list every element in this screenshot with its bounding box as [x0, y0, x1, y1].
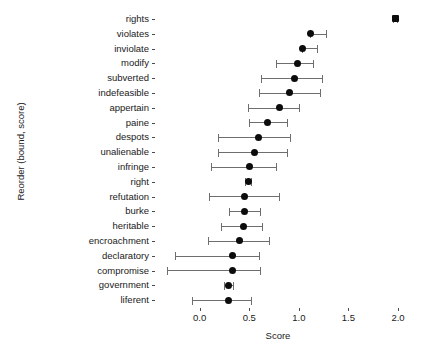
data-row — [158, 293, 398, 308]
category-label: liferent — [120, 293, 149, 308]
y-axis-tick-infringe: infringe — [0, 160, 155, 175]
category-label: violates — [117, 27, 149, 42]
data-row — [158, 234, 398, 249]
tick-mark — [152, 19, 156, 20]
category-label: despots — [116, 130, 149, 145]
data-point — [264, 119, 271, 126]
error-bar-cap-low — [221, 223, 222, 231]
error-bar-cap-low — [175, 252, 176, 260]
data-row — [158, 86, 398, 101]
error-bar — [218, 137, 290, 138]
data-row — [158, 190, 398, 205]
data-row — [158, 71, 398, 86]
category-label: declaratory — [102, 249, 149, 264]
data-row — [158, 12, 398, 27]
y-axis-tick-unalienable: unalienable — [0, 145, 155, 160]
y-axis-tick-heritable: heritable — [0, 219, 155, 234]
tick-mark — [152, 137, 156, 138]
tick-mark — [152, 271, 156, 272]
error-bar-cap-low — [192, 297, 193, 305]
x-tick-mark — [348, 308, 349, 311]
error-bar-cap-high — [260, 267, 261, 275]
data-point — [294, 60, 301, 67]
error-bar-cap-high — [233, 282, 234, 290]
x-tick-label: 0.5 — [243, 312, 256, 323]
error-bar — [211, 167, 276, 168]
y-axis-tick-compromise: compromise — [0, 264, 155, 279]
y-axis-tick-violates: violates — [0, 27, 155, 42]
category-label: heritable — [113, 219, 149, 234]
tick-mark — [152, 63, 156, 64]
error-bar-cap-high — [262, 223, 263, 231]
category-label: government — [99, 278, 149, 293]
error-bar-cap-low — [249, 119, 250, 127]
category-label: appertain — [109, 101, 149, 116]
data-point — [241, 193, 248, 200]
error-bar-cap-high — [299, 104, 300, 112]
data-point — [251, 149, 258, 156]
chart-figure: Reorder (bound, score) rightsviolatesinv… — [0, 0, 428, 353]
error-bar — [248, 108, 299, 109]
tick-mark — [152, 211, 156, 212]
tick-mark — [152, 182, 156, 183]
data-row — [158, 175, 398, 190]
category-label: refutation — [109, 190, 149, 205]
y-axis-tick-inviolate: inviolate — [0, 42, 155, 57]
y-axis-tick-labels: rightsviolatesinviolatemodifysubvertedin… — [0, 12, 155, 308]
data-row — [158, 145, 398, 160]
y-axis-tick-liferent: liferent — [0, 293, 155, 308]
tick-mark — [152, 256, 156, 257]
tick-mark — [152, 197, 156, 198]
data-row — [158, 219, 398, 234]
x-tick-label: 0.0 — [193, 312, 206, 323]
category-label: modify — [121, 56, 149, 71]
y-axis-tick-despots: despots — [0, 130, 155, 145]
category-label: subverted — [107, 71, 149, 86]
error-bar-cap-low — [167, 267, 168, 275]
data-row — [158, 56, 398, 71]
y-axis-tick-subverted: subverted — [0, 71, 155, 86]
error-bar-cap-high — [279, 193, 280, 201]
error-bar-cap-high — [290, 134, 291, 142]
y-axis-tick-declaratory: declaratory — [0, 249, 155, 264]
data-point — [229, 252, 236, 259]
data-point — [245, 178, 252, 185]
x-tick-label: 2.0 — [391, 312, 404, 323]
y-axis-tick-paine: paine — [0, 116, 155, 131]
error-bar-cap-low — [248, 104, 249, 112]
data-point — [229, 267, 236, 274]
x-tick-label: 1.5 — [342, 312, 355, 323]
x-tick-mark — [398, 308, 399, 311]
data-row — [158, 116, 398, 131]
category-label: rights — [126, 12, 149, 27]
error-bar-cap-high — [260, 208, 261, 216]
error-bar-cap-low — [209, 193, 210, 201]
error-bar — [167, 270, 260, 271]
category-label: unalienable — [100, 145, 149, 160]
data-point — [307, 30, 314, 37]
x-tick-mark — [249, 308, 250, 311]
data-point — [299, 45, 306, 52]
y-axis-tick-modify: modify — [0, 56, 155, 71]
error-bar-cap-low — [259, 89, 260, 97]
y-axis-tick-indefeasible: indefeasible — [0, 86, 155, 101]
tick-mark — [152, 226, 156, 227]
data-point — [236, 237, 243, 244]
category-label: indefeasible — [98, 86, 149, 101]
error-bar-cap-high — [326, 30, 327, 38]
y-axis-tick-right: right — [0, 175, 155, 190]
tick-mark — [152, 123, 156, 124]
y-axis-tick-government: government — [0, 278, 155, 293]
data-row — [158, 27, 398, 42]
data-row — [158, 101, 398, 116]
error-bar-cap-low — [218, 149, 219, 157]
y-axis-tick-rights: rights — [0, 12, 155, 27]
error-bar-cap-high — [313, 60, 314, 68]
category-label: inviolate — [114, 42, 149, 57]
error-bar-cap-high — [320, 89, 321, 97]
category-label: infringe — [118, 160, 149, 175]
x-axis-label: Score — [158, 330, 398, 341]
error-bar — [175, 256, 259, 257]
data-point — [246, 163, 253, 170]
error-bar-cap-low — [276, 60, 277, 68]
